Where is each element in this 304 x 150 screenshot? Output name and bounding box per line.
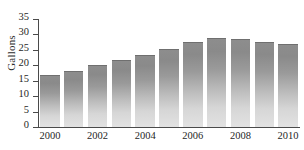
bar [183,42,203,127]
bar [64,71,84,127]
bar [278,44,298,127]
y-axis-tick-label: 15 [19,74,30,85]
y-axis-tick-label: 35 [19,12,30,23]
plot-area [38,19,300,127]
x-axis-tick-label: 2006 [182,131,203,142]
y-axis-tick-label: 0 [24,120,29,131]
y-axis-tick-label: 20 [19,58,30,69]
x-axis-tick-label: 2002 [87,131,108,142]
y-axis-tick-mark [33,127,38,128]
bar-chart: Gallons 05101520253035 20002002200420062… [0,0,304,150]
y-axis-tick-label: 10 [19,89,30,100]
x-axis-line [38,127,300,128]
y-axis-tick-label: 25 [19,43,30,54]
bar [159,49,179,127]
bar [88,65,108,127]
bar [40,75,60,127]
x-axis-tick-label: 2004 [135,131,156,142]
bar [255,42,275,127]
y-axis-tick-label: 30 [19,27,30,38]
x-axis-tick-label: 2010 [278,131,299,142]
x-axis-tick-label: 2000 [39,131,60,142]
x-axis-tick-label: 2008 [230,131,251,142]
bar [112,60,132,127]
bar [207,38,227,127]
y-axis-title: Gallons [5,23,17,83]
y-axis-tick-label: 5 [24,105,29,116]
bar [135,55,155,127]
bar [231,39,251,127]
